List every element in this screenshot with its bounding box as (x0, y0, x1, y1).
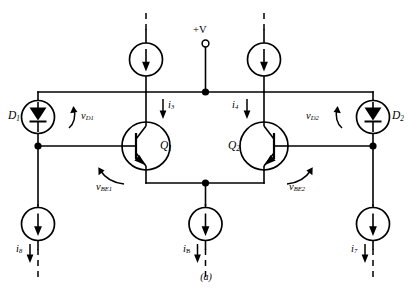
node-d1-base (34, 142, 41, 149)
label-q1: Q1 (160, 140, 172, 153)
label-d2: D2 (392, 110, 404, 123)
current-source-bottom-left (22, 208, 55, 241)
i8-arrow-head (27, 255, 34, 264)
label-i4: i4 (232, 100, 238, 111)
current-source-bottom-center (189, 208, 222, 241)
label-vd2: vD2 (306, 111, 319, 122)
schematic-drawing (0, 0, 411, 292)
vd2-arrow-head (334, 106, 341, 113)
diode-d1 (22, 101, 55, 134)
vd1-arrow-head (70, 106, 77, 113)
current-source-bottom-right (357, 208, 390, 241)
current-source-top-left (130, 43, 163, 76)
label-supply-voltage: +V (193, 24, 207, 35)
label-ib: iB (183, 244, 190, 255)
ib-arrow-head (194, 255, 201, 264)
i7-arrow-head (362, 255, 369, 264)
label-i3: i3 (168, 100, 174, 111)
i3-arrow-head (160, 111, 167, 120)
junction-dots (34, 88, 376, 186)
label-q2: Q2 (228, 140, 240, 153)
circuit-figure: D1 D2 Q1 Q2 vD1 vD2 vBE1 vBE2 i3 i4 i8 i… (0, 0, 411, 292)
i4-arrow-head (244, 111, 251, 120)
node-supply-rail (202, 88, 209, 95)
node-emitter-tail (202, 179, 209, 186)
label-i7: i7 (351, 244, 357, 255)
label-d1: D1 (8, 110, 20, 123)
label-i8: i8 (16, 244, 22, 255)
transistor-q2 (240, 122, 289, 170)
label-vd1: vD1 (81, 111, 94, 122)
diode-d2 (357, 101, 390, 134)
figure-caption: (a) (186, 271, 226, 282)
supply-terminal-node (202, 40, 209, 47)
label-vbe1: vBE1 (96, 182, 112, 193)
current-source-top-right (248, 43, 281, 76)
label-vbe2: vBE2 (289, 182, 305, 193)
node-d2-base (369, 142, 376, 149)
